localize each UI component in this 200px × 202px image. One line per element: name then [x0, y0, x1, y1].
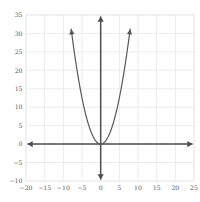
y-tick-label: 5 [19, 122, 23, 129]
y-tick-label: 0 [19, 140, 23, 147]
y-tick-label: 20 [15, 67, 23, 74]
plot-background [26, 15, 194, 181]
x-tick-label: −10 [57, 184, 70, 191]
chart-canvas: −10−505101520253035 −20−15−10−5051015202… [0, 0, 200, 202]
x-tick-label: 15 [153, 184, 161, 191]
x-tick-label: −15 [38, 184, 51, 191]
x-tick-label: 25 [190, 184, 198, 191]
x-tick-label: −20 [19, 184, 32, 191]
parabola-chart: −10−505101520253035 −20−15−10−5051015202… [0, 0, 200, 202]
x-tick-label: −5 [77, 184, 86, 191]
x-tick-label: 20 [171, 184, 179, 191]
y-tick-label: 35 [15, 11, 23, 18]
x-axis-tick-labels: −20−15−10−50510152025 [19, 184, 198, 191]
x-tick-label: 0 [99, 184, 103, 191]
y-tick-label: 25 [15, 48, 23, 55]
y-tick-label: 10 [15, 103, 23, 110]
y-axis-tick-labels: −10−505101520253035 [9, 11, 22, 184]
y-tick-label: 15 [15, 85, 23, 92]
x-tick-label: 5 [117, 184, 121, 191]
y-tick-label: −5 [13, 159, 22, 166]
y-tick-label: 30 [15, 30, 23, 37]
x-tick-label: 10 [134, 184, 142, 191]
